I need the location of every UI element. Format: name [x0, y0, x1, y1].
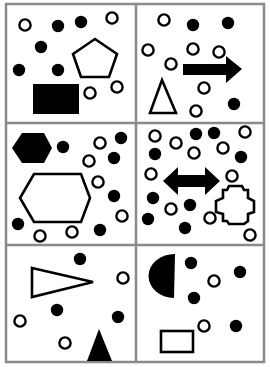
filled-circle	[230, 320, 242, 332]
filled-circle	[52, 64, 64, 76]
open-circle	[92, 176, 103, 187]
filled-circle	[108, 152, 120, 164]
filled-rectangle-shape	[33, 84, 79, 114]
filled-circle	[35, 41, 47, 53]
filled-hexagon-shape	[12, 133, 52, 163]
open-circle	[239, 126, 250, 137]
open-cross-octagon-shape	[216, 186, 254, 224]
open-circle	[14, 315, 25, 326]
open-circle	[187, 43, 198, 54]
filled-circle	[12, 218, 24, 230]
open-circle	[94, 137, 105, 148]
open-circle	[198, 82, 209, 93]
open-circle	[244, 229, 255, 240]
filled-circle	[184, 199, 196, 211]
open-circle	[84, 87, 95, 98]
open-circle	[111, 81, 122, 92]
filled-circle	[51, 304, 63, 316]
filled-circle	[185, 257, 197, 269]
filled-circle	[112, 311, 124, 323]
filled-circle	[115, 132, 127, 144]
open-circle	[217, 142, 228, 153]
filled-circle	[179, 222, 191, 234]
open-triangle-shape	[32, 268, 93, 297]
filled-circle	[147, 192, 159, 204]
open-circle	[19, 19, 30, 30]
filled-circle	[228, 98, 240, 110]
open-circle	[142, 44, 153, 55]
filled-circle	[94, 224, 106, 236]
open-circle	[117, 272, 128, 283]
filled-circle	[187, 19, 199, 31]
open-circle	[66, 226, 77, 237]
filled-circle	[222, 17, 234, 29]
open-circle	[34, 230, 45, 241]
open-circle	[213, 46, 224, 57]
filled-arrow-right-shape	[183, 56, 242, 83]
open-circle	[59, 337, 70, 348]
shape-matrix	[0, 0, 270, 367]
filled-circle	[13, 64, 25, 76]
filled-circle	[75, 16, 87, 28]
open-triangle-shape	[150, 80, 176, 113]
filled-circle	[234, 266, 246, 278]
open-circle	[208, 275, 219, 286]
open-circle	[149, 130, 160, 141]
open-circle	[106, 12, 117, 23]
open-circle	[165, 58, 176, 69]
open-circle	[204, 212, 215, 223]
open-circle	[145, 168, 156, 179]
filled-circle	[188, 292, 200, 304]
open-rectangle-shape	[161, 331, 193, 352]
open-circle	[165, 203, 176, 214]
open-circle	[188, 147, 199, 158]
filled-circle	[149, 148, 161, 160]
filled-triangle-shape	[87, 329, 112, 361]
filled-circle	[235, 151, 247, 163]
filled-circle	[208, 127, 220, 139]
filled-double-arrow-shape	[163, 167, 220, 195]
filled-circle	[142, 213, 154, 225]
filled-circle	[108, 190, 120, 202]
filled-circle	[190, 128, 202, 140]
open-circle	[198, 320, 209, 331]
open-circle	[226, 170, 237, 181]
puzzle-figure	[0, 0, 270, 367]
filled-circle	[57, 141, 69, 153]
filled-circle	[74, 253, 86, 265]
open-circle	[158, 14, 169, 25]
half-disc-shape	[149, 254, 175, 298]
open-hexagon-shape	[20, 174, 90, 222]
filled-circle	[52, 20, 64, 32]
open-pentagon-shape	[73, 39, 117, 77]
open-circle	[190, 105, 201, 116]
open-circle	[116, 210, 127, 221]
open-circle	[83, 155, 94, 166]
open-circle	[170, 137, 181, 148]
